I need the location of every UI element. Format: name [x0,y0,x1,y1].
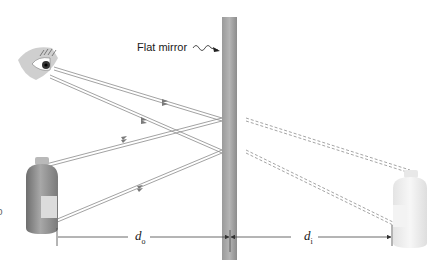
object-distance-label: do [132,228,149,246]
mirror-label: Flat mirror [137,41,187,53]
image-distance-subscript: i [311,237,313,246]
object-distance-subscript: o [142,237,146,246]
flat-mirror [222,17,237,260]
image-distance-label: di [301,228,316,246]
diagram-canvas [0,0,442,263]
object-bottle [26,157,58,234]
eye-icon [18,47,58,80]
real-rays [42,67,222,223]
cropped-text-fragment: o [0,206,3,217]
flat-mirror-diagram: Flat mirror do di o [0,0,442,263]
image-bottle [393,170,427,248]
virtual-rays [246,118,410,226]
